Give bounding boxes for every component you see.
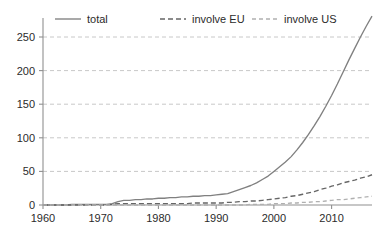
x-tick-label: 2000 (262, 212, 286, 224)
x-tick-label: 1970 (88, 212, 112, 224)
chart-legend: totalinvolve EUinvolve US (55, 13, 337, 25)
x-tick-label: 1990 (204, 212, 228, 224)
legend-label-total: total (87, 13, 108, 25)
data-series (43, 16, 372, 205)
x-tick-label: 1960 (31, 212, 55, 224)
y-tick-label: 0 (29, 199, 35, 211)
y-tick-label: 250 (17, 31, 35, 43)
series-line-total (43, 16, 372, 205)
y-tick-label: 100 (17, 132, 35, 144)
series-line-involve-eu (43, 175, 372, 205)
legend-label-involve-us: involve US (284, 13, 337, 25)
x-tick-label: 2010 (319, 212, 343, 224)
legend-label-involve-eu: involve EU (192, 13, 245, 25)
y-tick-marks (39, 37, 43, 205)
line-chart: 050100150200250 196019701980199020002010… (0, 0, 376, 240)
y-tick-label: 150 (17, 98, 35, 110)
gridlines (43, 37, 372, 171)
x-tick-labels: 196019701980199020002010 (31, 212, 344, 224)
chart-canvas: 050100150200250 196019701980199020002010… (0, 0, 376, 240)
y-tick-label: 50 (23, 165, 35, 177)
y-tick-labels: 050100150200250 (17, 31, 35, 211)
x-tick-label: 1980 (146, 212, 170, 224)
y-tick-label: 200 (17, 65, 35, 77)
